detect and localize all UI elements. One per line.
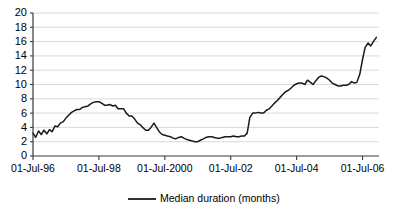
x-tick-label: 01-Jul-96 [11,162,55,174]
x-tick-label: 01-Jul-2000 [137,162,193,174]
y-tick-label: 14 [15,49,27,61]
series-line-median-duration [33,37,376,141]
x-tick-label: 01-Jul-06 [341,162,385,174]
y-tick-label: 4 [21,121,27,133]
y-tick-label: 8 [21,92,27,104]
line-chart: 02468101214161820 01-Jul-9601-Jul-9801-J… [0,0,397,216]
x-tick-label: 01-Jul-02 [209,162,253,174]
x-tick-label: 01-Jul-04 [275,162,319,174]
y-tick-label: 0 [21,149,27,161]
chart-container: 02468101214161820 01-Jul-9601-Jul-9801-J… [0,0,397,216]
y-tick-label: 16 [15,35,27,47]
y-tick-label: 18 [15,21,27,33]
x-axis-tick-marks [33,156,363,160]
y-tick-label: 10 [15,78,27,90]
y-tick-label: 12 [15,64,27,76]
y-tick-label: 6 [21,107,27,119]
y-axis-tick-labels: 02468101214161820 [15,6,27,161]
x-tick-label: 01-Jul-98 [77,162,121,174]
x-axis-tick-labels: 01-Jul-9601-Jul-9801-Jul-200001-Jul-0201… [11,162,384,174]
y-tick-label: 2 [21,135,27,147]
y-tick-label: 20 [15,6,27,18]
legend-label: Median duration (months) [160,192,280,204]
